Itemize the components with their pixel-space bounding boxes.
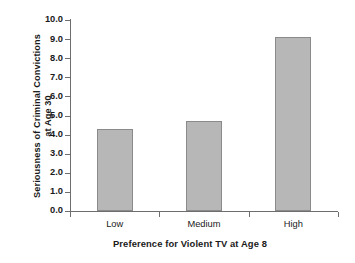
y-tick-label: 7.0 xyxy=(23,73,63,82)
plot-area xyxy=(70,20,338,211)
x-tick-mark xyxy=(338,212,339,217)
bar-high xyxy=(275,37,311,211)
x-tick-label-low: Low xyxy=(75,219,155,230)
y-tick-label: 10.0 xyxy=(23,15,63,24)
x-axis-line xyxy=(70,211,338,212)
x-axis-title: Preference for Violent TV at Age 8 xyxy=(40,238,340,249)
y-tick-label: 2.0 xyxy=(23,168,63,177)
y-tick-label: 3.0 xyxy=(23,149,63,158)
bar-low xyxy=(97,129,133,211)
x-tick-label-medium: Medium xyxy=(164,219,244,230)
x-tick-mark xyxy=(249,212,250,217)
x-tick-label-high: High xyxy=(253,219,333,230)
x-tick-mark xyxy=(70,212,71,217)
bar-chart-figure: Seriousness of Criminal Convictions at A… xyxy=(0,0,355,263)
y-tick-label: 6.0 xyxy=(23,92,63,101)
y-tick-label: 4.0 xyxy=(23,130,63,139)
bar-medium xyxy=(186,121,222,211)
y-tick-label: 5.0 xyxy=(23,111,63,120)
x-tick-mark xyxy=(159,212,160,217)
y-tick-label: 9.0 xyxy=(23,35,63,44)
y-tick-label: 1.0 xyxy=(23,187,63,196)
y-tick-label: 0.0 xyxy=(23,206,63,215)
y-tick-label: 8.0 xyxy=(23,54,63,63)
